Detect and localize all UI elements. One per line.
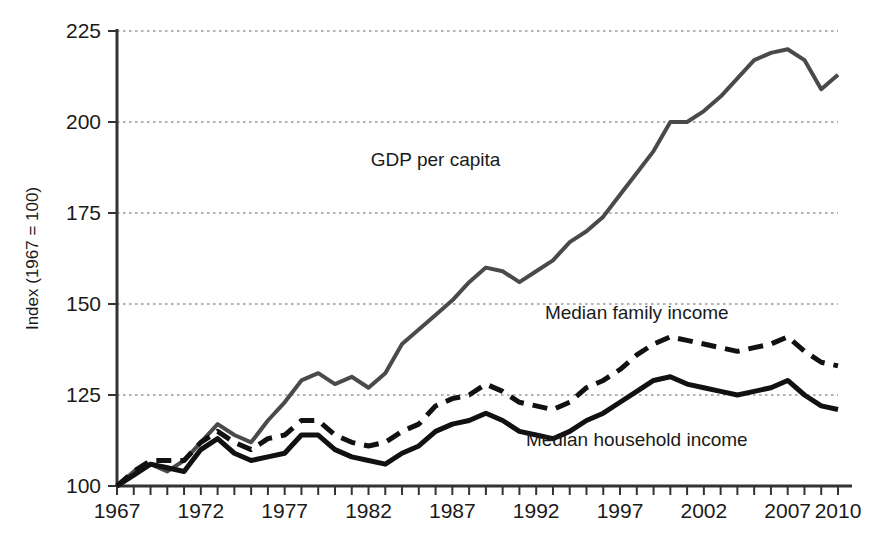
chart-container: 100125150175200225 196719721977198219871… (0, 0, 882, 540)
series-label-1: GDP per capita (371, 149, 501, 170)
x-tick-label: 2007 (764, 499, 811, 522)
x-tick-label: 1992 (513, 499, 560, 522)
line-chart: 100125150175200225 196719721977198219871… (0, 0, 882, 540)
y-tick-label: 225 (66, 19, 101, 42)
series-label-3: Median household income (526, 429, 748, 450)
x-tick-label: 1987 (429, 499, 476, 522)
series-line-2 (117, 337, 838, 486)
y-axis (108, 29, 117, 486)
x-tick-labels: 1967197219771982198719921997200220072010 (94, 499, 862, 522)
x-tick-label: 1982 (345, 499, 392, 522)
x-tick-label: 2002 (681, 499, 728, 522)
x-tick-label: 2010 (815, 499, 862, 522)
data-series (117, 49, 838, 486)
series-line-1 (117, 49, 838, 486)
x-tick-label: 1972 (177, 499, 224, 522)
y-tick-label: 175 (66, 201, 101, 224)
series-label-2: Median family income (545, 302, 729, 323)
y-axis-title: Index (1967 = 100) (23, 187, 42, 330)
y-axis-title-text: Index (1967 = 100) (23, 187, 42, 330)
y-tick-label: 100 (66, 474, 101, 497)
y-tick-label: 150 (66, 292, 101, 315)
x-axis (117, 486, 852, 495)
x-tick-label: 1967 (94, 499, 141, 522)
y-tick-label: 125 (66, 383, 101, 406)
y-tick-label: 200 (66, 110, 101, 133)
y-tick-labels: 100125150175200225 (66, 19, 101, 497)
x-tick-label: 1997 (597, 499, 644, 522)
x-tick-label: 1977 (261, 499, 308, 522)
